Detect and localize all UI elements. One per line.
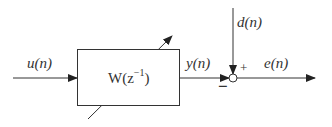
input-label: u(n)	[27, 55, 52, 72]
desired-label: d(n)	[237, 14, 262, 31]
minus-sign: −	[218, 77, 228, 96]
output-label: y(n)	[184, 55, 210, 72]
adaptive-filter-diagram: u(n) W(z−1) W(z−1) y(n) d(n) + − e(n)	[0, 0, 332, 127]
plus-sign: +	[240, 60, 247, 75]
summing-junction	[229, 74, 237, 82]
error-label: e(n)	[264, 55, 288, 72]
